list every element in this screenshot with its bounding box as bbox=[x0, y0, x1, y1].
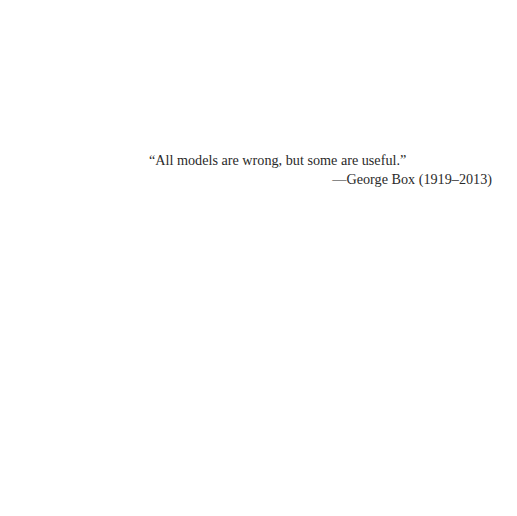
epigraph-quote: “All models are wrong, but some are usef… bbox=[149, 151, 492, 170]
document-page: “All models are wrong, but some are usef… bbox=[0, 0, 517, 516]
epigraph-attribution: —George Box (1919–2013) bbox=[149, 170, 492, 189]
epigraph: “All models are wrong, but some are usef… bbox=[149, 151, 492, 189]
